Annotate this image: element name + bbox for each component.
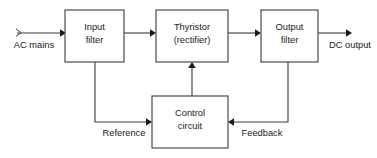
block-output-filter[interactable]: Output filter — [261, 10, 318, 62]
block-output-filter-label-line1: Output — [276, 22, 304, 32]
block-thyristor-label-line2: (rectifier) — [174, 35, 211, 45]
arrowhead-into-thyristor-gate — [188, 62, 196, 68]
label-reference: Reference — [103, 128, 146, 138]
wire-reference — [95, 62, 152, 126]
block-control-circuit[interactable]: Control circuit — [152, 96, 228, 148]
arrowhead-into-thyristor — [150, 29, 156, 37]
wire-ac-mains — [16, 29, 66, 37]
block-input-filter[interactable]: Input filter — [65, 10, 124, 62]
block-output-filter-label-line2: filter — [281, 35, 299, 45]
label-ac-mains: AC mains — [14, 40, 55, 50]
arrowhead-into-output-filter — [255, 29, 261, 37]
block-diagram: Input filter Thyristor (rectifier) Outpu… — [0, 0, 377, 158]
arrowhead-into-control-circuit-reference — [146, 118, 152, 126]
block-thyristor-rectifier[interactable]: Thyristor (rectifier) — [156, 10, 228, 62]
label-feedback: Feedback — [242, 128, 283, 138]
block-input-filter-label-line1: Input — [84, 22, 105, 32]
block-control-circuit-label-line1: Control — [175, 108, 205, 118]
block-input-filter-label-line2: filter — [86, 35, 104, 45]
wire-feedback — [228, 62, 288, 126]
wire-control-to-thyristor — [188, 62, 196, 96]
label-dc-output: DC output — [329, 40, 371, 50]
arrowhead-dc-output — [346, 29, 352, 37]
diagram-svg: Input filter Thyristor (rectifier) Outpu… — [0, 0, 377, 158]
block-control-circuit-label-line2: circuit — [178, 121, 203, 131]
wire-inputfilter-to-thyristor — [124, 29, 156, 37]
block-thyristor-label-line1: Thyristor — [174, 22, 210, 32]
wire-dc-output — [318, 29, 352, 37]
arrowhead-into-control-circuit-feedback — [228, 118, 234, 126]
wire-thyristor-to-outputfilter — [228, 29, 261, 37]
